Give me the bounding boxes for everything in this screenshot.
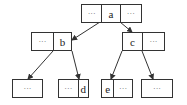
- pointer-cell: ···: [13, 80, 42, 97]
- tree-node-e: e···: [101, 79, 133, 98]
- edge-arrow-b-to-d: [72, 51, 79, 79]
- tree-node-leaf4: ···: [141, 79, 173, 98]
- tree-node-c: c···: [122, 32, 165, 51]
- edge-arrow-c-to-e: [111, 51, 122, 79]
- tree-node-b: ···b: [31, 32, 72, 51]
- pointer-cell: ···: [120, 5, 141, 22]
- tree-node-leaf1: ···: [12, 79, 43, 98]
- pointer-cell: ···: [113, 80, 132, 97]
- key-cell: d: [78, 80, 88, 97]
- tree-node-d: ···d: [58, 79, 89, 98]
- key-cell: c: [123, 33, 142, 50]
- pointer-cell: ···: [142, 33, 164, 50]
- edge-arrow-c-to-leaf4: [142, 51, 153, 79]
- key-cell: a: [101, 5, 119, 22]
- key-cell: b: [53, 33, 71, 50]
- pointer-cell: ···: [82, 5, 101, 22]
- edge-arrow-a-to-c: [120, 22, 132, 32]
- edge-arrow-a-to-b: [72, 22, 100, 40]
- pointer-cell: ···: [142, 80, 172, 97]
- pointer-cell: ···: [59, 80, 78, 97]
- tree-node-a: ···a···: [81, 4, 142, 23]
- edge-arrow-b-to-leaf1: [28, 51, 53, 79]
- pointer-cell: ···: [32, 33, 53, 50]
- key-cell: e: [102, 80, 113, 97]
